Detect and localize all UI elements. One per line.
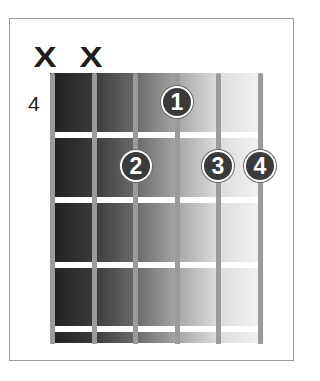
string-4: [133, 73, 138, 344]
fret-line-3: [50, 262, 264, 268]
finger-dot-3: 3: [202, 150, 234, 182]
fretboard-gradient: [50, 73, 264, 343]
finger-dot-1: 1: [161, 86, 193, 118]
starting-fret-label: 4: [28, 93, 40, 115]
fret-line-4: [50, 326, 264, 332]
mute-marker-string-6: X: [30, 44, 60, 70]
mute-marker-string-5: X: [76, 44, 106, 70]
fret-line-2: [50, 197, 264, 203]
string-5: [92, 73, 97, 344]
string-6: [50, 73, 55, 344]
string-2: [216, 73, 221, 344]
finger-dot-2: 2: [120, 150, 152, 182]
fret-line-1: [50, 132, 264, 138]
string-1: [258, 73, 263, 344]
finger-dot-4: 4: [244, 150, 276, 182]
